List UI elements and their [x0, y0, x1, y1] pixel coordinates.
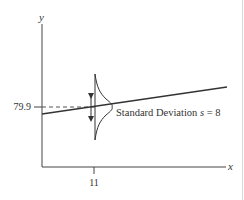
annotation-suffix: = 8 [204, 107, 220, 118]
x-tick-label: 11 [89, 177, 99, 188]
y-axis-label: y [38, 11, 44, 23]
x-axis-label: x [227, 160, 233, 172]
annotation-prefix: Standard Deviation [116, 107, 200, 118]
y-tick-label: 79.9 [14, 101, 32, 112]
regression-diagram: y x 11 79.9 Standard Deviation s = 8 [0, 0, 244, 200]
std-dev-annotation: Standard Deviation s = 8 [116, 107, 221, 118]
normal-distribution-curve [95, 74, 112, 140]
